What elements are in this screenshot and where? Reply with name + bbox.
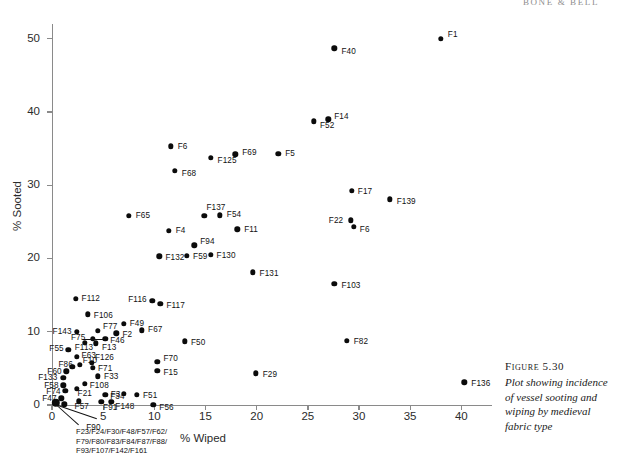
data-point: [126, 213, 131, 218]
data-point: [332, 45, 337, 50]
data-point: [184, 253, 189, 258]
data-point: [151, 402, 156, 407]
data-point-label: F14: [334, 112, 348, 121]
data-point-label: F13: [102, 343, 116, 352]
data-point: [202, 213, 207, 218]
data-point: [235, 226, 240, 231]
data-point-label: F125: [218, 156, 237, 165]
data-point: [155, 368, 160, 373]
data-point-label: F40: [341, 47, 355, 56]
y-tick-label: 0: [14, 398, 40, 410]
x-tick-label: 15: [190, 410, 220, 422]
data-point-label: F33: [104, 372, 118, 381]
data-point-label: F21: [78, 389, 92, 398]
data-point: [74, 354, 79, 359]
data-point: [157, 254, 162, 259]
data-point: [438, 36, 443, 41]
data-point: [387, 196, 392, 201]
data-point-label: F69: [242, 148, 256, 157]
data-point: [348, 218, 353, 223]
data-point-label: F10: [83, 356, 97, 365]
data-point-label: F136: [471, 379, 490, 388]
data-point-label: F51: [143, 391, 157, 400]
y-axis-title: % Sooted: [11, 166, 23, 246]
y-tick-label: 40: [14, 105, 40, 117]
y-tick-mark: [47, 258, 52, 259]
y-tick-mark: [47, 38, 52, 39]
data-point: [121, 321, 126, 326]
data-point: [82, 381, 87, 386]
data-point: [172, 168, 177, 173]
origin-cluster-annotation: F23/F24/F30/F48/F57/F62/F79/F80/F83/F84/…: [76, 427, 167, 456]
data-point: [182, 339, 187, 344]
data-point: [332, 281, 337, 286]
data-point-label: F54: [227, 210, 241, 219]
data-point-label: F106: [94, 311, 113, 320]
data-point-label: F55: [49, 344, 63, 353]
data-point-label: F131: [260, 269, 279, 278]
figure-caption: Figure 5.30 Plot showing incidence of ve…: [505, 360, 617, 433]
x-axis-title: % Wiped: [180, 432, 226, 444]
data-point-label: F50: [191, 338, 205, 347]
data-point-label: F6: [178, 142, 188, 151]
data-point: [192, 243, 197, 248]
data-point-label: F70: [163, 354, 177, 363]
data-point: [155, 359, 160, 364]
data-point-label: F130: [217, 251, 236, 260]
data-point: [90, 365, 95, 370]
data-point: [217, 213, 222, 218]
data-point: [208, 252, 213, 257]
data-point: [63, 388, 68, 393]
data-point-label: F5: [285, 149, 295, 158]
data-point: [275, 151, 280, 156]
data-point-label: F148: [115, 402, 134, 411]
data-point-label: F68: [182, 169, 196, 178]
y-tick-mark: [47, 111, 52, 112]
y-tick-label: 10: [14, 325, 40, 337]
data-point: [61, 383, 66, 388]
data-point-label: F117: [166, 301, 184, 310]
x-tick-label: 30: [344, 410, 374, 422]
data-point-label: F1: [448, 30, 458, 39]
data-point: [95, 374, 100, 379]
data-point: [121, 391, 126, 396]
running-header: BONE & BELL: [523, 0, 599, 7]
data-point-label: F59: [193, 252, 207, 261]
cluster-note-line: F79/F80/F83/F84/F87/F88/: [76, 437, 167, 447]
y-tick-label: 50: [14, 32, 40, 44]
data-point: [250, 270, 255, 275]
data-point-label: F82: [354, 337, 368, 346]
data-point: [61, 375, 66, 380]
data-point: [166, 228, 171, 233]
data-point-label: F116: [128, 295, 146, 304]
data-point: [73, 296, 78, 301]
data-point: [59, 396, 64, 401]
data-point-label: F112: [82, 294, 100, 303]
f75-leader-line: [83, 339, 103, 340]
x-tick-label: 20: [242, 410, 272, 422]
data-point: [232, 152, 237, 157]
data-point-label: F4: [176, 226, 186, 235]
data-point: [103, 336, 108, 341]
data-point: [93, 341, 98, 346]
figure-number: Figure 5.30: [505, 360, 617, 372]
scatter-plot: 01020304050 0510152025303540 % Sooted % …: [0, 0, 500, 471]
data-point-label: F57: [75, 402, 89, 411]
data-point-label: F6: [360, 225, 370, 234]
data-point-label: F56: [159, 403, 173, 412]
cluster-note-line: F23/F24/F30/F48/F57/F62/: [76, 427, 167, 437]
figure-caption-text: Plot showing incidence of vessel sooting…: [505, 375, 617, 433]
x-tick-label: 40: [446, 410, 476, 422]
data-point: [311, 119, 316, 124]
x-tick-label: 25: [293, 410, 323, 422]
data-point-label: F137: [206, 203, 225, 212]
data-point: [150, 298, 155, 303]
data-point: [158, 301, 163, 306]
data-point: [168, 144, 173, 149]
data-point-label: F143: [53, 327, 72, 336]
data-point: [134, 392, 139, 397]
data-point-label: F132: [165, 253, 184, 262]
y-tick-mark: [47, 331, 52, 332]
data-point: [351, 224, 356, 229]
cluster-note-line: F93/F107/F142/F161: [76, 446, 167, 456]
